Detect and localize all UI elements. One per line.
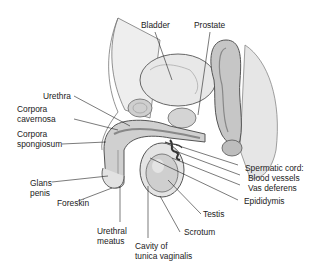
testis-shape [146,154,178,192]
label-cavity-tunica-vaginalis: Cavity of tunica vaginalis [135,241,192,261]
label-prostate: Prostate [194,20,225,30]
label-glans-penis: Glans penis [30,178,52,198]
label-vas-deferens: Vas deferens [248,183,297,193]
label-urethra: Urethra [43,91,71,101]
label-urethral-meatus: Urethral meatus [97,226,127,246]
prostate-shape [168,108,196,128]
label-spermatic-cord: Spermatic cord: [245,163,304,173]
label-scrotum: Scrotum [184,227,215,237]
label-foreskin: Foreskin [57,198,89,208]
label-epididymis: Epididymis [244,196,285,206]
label-bladder: Bladder [141,20,170,30]
label-testis: Testis [203,209,224,219]
label-corpora-cavernosa: Corpora cavernosa [17,104,56,124]
rectum [211,40,242,145]
label-corpora-spongiosum: Corpora spongiosum [17,129,62,149]
sacrum [240,45,277,178]
pubic-bone [128,99,152,117]
label-blood-vessels: Blood vessels [248,173,300,183]
bladder-shape [140,54,216,106]
